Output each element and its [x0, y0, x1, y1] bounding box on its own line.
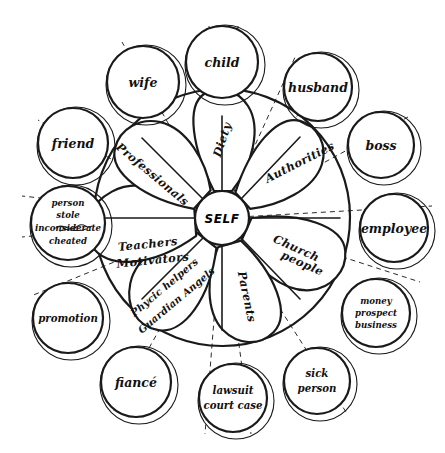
node-fiance-label: fiancé — [114, 375, 157, 390]
node-money-label-l2: prospect — [355, 308, 397, 318]
node-employee[interactable]: employee — [359, 193, 435, 269]
node-child[interactable]: child — [185, 25, 265, 105]
node-husband[interactable]: husband — [283, 52, 359, 128]
node-friend[interactable]: friend — [37, 107, 115, 185]
node-boss[interactable]: boss — [347, 111, 421, 185]
node-wife-label: wife — [129, 75, 158, 90]
node-money-label-l3: business — [355, 320, 397, 330]
node-child-label: child — [205, 55, 240, 70]
node-hurt-label-l1: person — [52, 198, 85, 208]
node-sick-label-l1: sick — [306, 367, 329, 379]
node-promotion-label: promotion — [38, 312, 98, 324]
hub-self[interactable]: SELF — [195, 191, 249, 245]
node-employee-label: employee — [361, 221, 427, 236]
node-husband-label: husband — [288, 80, 348, 95]
self-label: SELF — [204, 212, 239, 226]
node-lawsuit-label-l1: lawsuit — [213, 384, 254, 396]
node-sick-person[interactable]: sick person — [283, 347, 357, 421]
node-sick-label-l2: person — [298, 382, 337, 394]
node-friend-label: friend — [51, 136, 95, 151]
node-person-hurt[interactable]: person stole inconsiderate cheated — [30, 185, 112, 267]
node-promotion[interactable]: promotion — [32, 282, 110, 360]
diagram-canvas: Diety Authorities Church people Parents … — [0, 0, 445, 453]
node-wife[interactable]: wife — [106, 45, 186, 125]
node-boss-label: boss — [365, 138, 396, 153]
node-lawsuit[interactable]: lawsuit court case — [198, 363, 274, 439]
self-relationship-wheel: Diety Authorities Church people Parents … — [0, 0, 445, 453]
node-money-label-l1: money — [360, 296, 393, 306]
node-fiance[interactable]: fiancé — [100, 346, 178, 424]
node-money[interactable]: money prospect business — [341, 278, 417, 354]
node-hurt-label-l4: cheated — [49, 236, 87, 246]
node-hurt-label-l2: stole — [56, 210, 80, 220]
node-lawsuit-label-l2: court case — [203, 399, 263, 411]
